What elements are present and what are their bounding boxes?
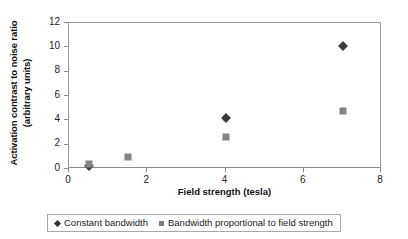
- x-axis-tick-mark: [380, 168, 381, 172]
- y-axis-tick-label: 6: [54, 89, 60, 100]
- x-axis-tick-label: 8: [377, 174, 383, 185]
- y-axis-title-line-1: Activation contrast to noise ratio: [8, 20, 21, 165]
- y-axis-ticks: 024681012: [40, 22, 68, 168]
- legend-marker-diamond-icon: [54, 219, 61, 226]
- data-point-square: [85, 160, 92, 167]
- x-axis-tick-mark: [68, 168, 69, 172]
- y-axis-tick-label: 10: [49, 40, 60, 51]
- legend-entry: Bandwidth proportional to field strength: [159, 218, 333, 228]
- data-point-diamond: [221, 113, 231, 123]
- y-axis-tick-label: 2: [54, 137, 60, 148]
- x-axis-tick-label: 6: [300, 174, 306, 185]
- legend-label: Constant bandwidth: [64, 218, 148, 228]
- x-axis-tick-mark: [303, 168, 304, 172]
- x-axis-tick-mark: [225, 168, 226, 172]
- y-axis-tick-label: 4: [54, 113, 60, 124]
- chart-figure: Activation contrast to noise ratio (arbi…: [0, 0, 408, 239]
- x-axis-title: Field strength (tesla): [68, 186, 381, 197]
- x-axis-tick-mark: [146, 168, 147, 172]
- legend-label: Bandwidth proportional to field strength: [168, 218, 333, 228]
- x-axis-tick-label: 0: [65, 174, 71, 185]
- x-axis-tick-label: 4: [222, 174, 228, 185]
- legend-entry: Constant bandwidth: [55, 218, 148, 228]
- x-axis-tick-label: 2: [143, 174, 149, 185]
- data-point-square: [124, 153, 131, 160]
- y-axis-tick-label: 8: [54, 64, 60, 75]
- data-point-square: [222, 134, 229, 141]
- y-axis-tick-label: 12: [49, 16, 60, 27]
- chart-legend: Constant bandwidthBandwidth proportional…: [47, 214, 341, 232]
- plot-area: [68, 22, 381, 168]
- data-point-square: [339, 107, 346, 114]
- legend-marker-square-icon: [159, 221, 164, 226]
- data-point-diamond: [338, 41, 348, 51]
- y-axis-title-line-2: (arbitrary units): [20, 20, 33, 165]
- y-axis-title: Activation contrast to noise ratio (arbi…: [0, 0, 40, 185]
- y-axis-tick-label: 0: [54, 162, 60, 173]
